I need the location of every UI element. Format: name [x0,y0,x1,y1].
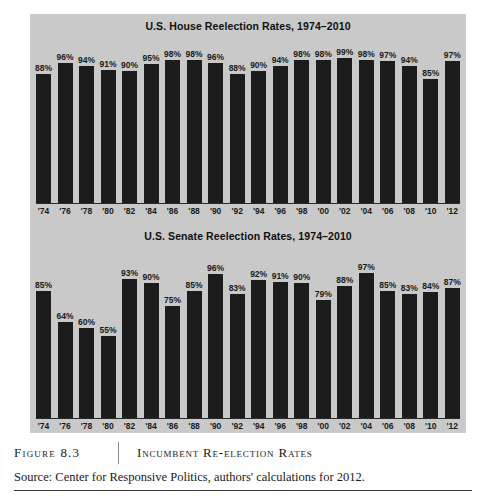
bar-slot: 60% [79,247,94,418]
x-tick-label: '78 [79,421,94,431]
bar-value-label: 85% [416,68,446,78]
bar [144,64,159,202]
x-tick-label: '74 [36,421,51,431]
bar [36,291,51,418]
x-tick-label: '86 [165,421,180,431]
bar-slot: 97% [359,247,374,418]
bar-slot: 83% [230,247,245,418]
bar [122,71,137,202]
bar [251,71,266,202]
bar [402,294,417,418]
bar [423,292,438,417]
bar [230,294,245,418]
x-tick-label: '92 [230,206,245,216]
x-tick-label: '10 [423,206,438,216]
bar-value-label: 87% [437,277,467,287]
bar-slot: 98% [165,37,180,203]
bar [294,283,309,417]
x-tick-label: '90 [208,206,223,216]
x-tick-label: '84 [144,421,159,431]
bar-slot: 94% [402,37,417,203]
bar [316,60,331,203]
bar-slot: 88% [36,37,51,203]
x-tick-label: '74 [36,206,51,216]
bar [165,306,180,418]
bar-slot: 88% [337,247,352,418]
bar-slot: 90% [122,37,137,203]
bar-value-label: 96% [201,52,231,62]
bar [251,280,266,417]
bar-slot: 92% [251,247,266,418]
x-tick-label: '04 [359,421,374,431]
bar-value-label: 83% [222,283,252,293]
bar [208,274,223,417]
house-x-axis-line [36,203,460,205]
x-tick-label: '80 [101,206,116,216]
x-tick-label: '00 [316,206,331,216]
x-tick-label: '08 [402,206,417,216]
bar [380,291,395,418]
x-tick-label: '02 [337,206,352,216]
bar-slot: 85% [187,247,202,418]
x-tick-label: '98 [294,206,309,216]
bar-slot: 64% [58,247,73,418]
bar-slot: 98% [187,37,202,203]
x-tick-label: '82 [122,421,137,431]
x-tick-label: '96 [273,421,288,431]
bar-value-label: 88% [330,275,360,285]
x-tick-label: '82 [122,206,137,216]
senate-bar-series: 85%64%60%55%93%90%75%85%96%83%92%91%90%7… [36,247,460,418]
house-chart: U.S. House Reelection Rates, 1974–2010 8… [30,14,466,224]
bar-value-label: 94% [394,55,424,65]
bar [359,273,374,418]
bar [144,283,159,417]
figure-source-note: Source: Center for Responsive Politics, … [14,470,474,485]
bar-slot: 90% [251,37,266,203]
bar-slot: 94% [273,37,288,203]
bar [187,60,202,203]
bar-slot: 96% [208,247,223,418]
x-tick-label: '12 [445,421,460,431]
bar [208,63,223,203]
x-tick-label: '96 [273,206,288,216]
bar-slot: 91% [273,247,288,418]
senate-x-axis-labels: '74'76'78'80'82'84'86'88'90'92'94'96'98'… [36,421,460,431]
bar-slot: 55% [101,247,116,418]
bar-value-label: 85% [29,280,59,290]
x-tick-label: '80 [101,421,116,431]
bar [165,60,180,203]
x-tick-label: '98 [294,421,309,431]
bar-slot: 98% [294,37,309,203]
bar [445,61,460,202]
bottom-rule [14,490,472,491]
bar [273,66,288,203]
house-plot-area: 88%96%94%91%90%95%98%98%96%88%90%94%98%9… [36,38,460,204]
x-tick-label: '08 [402,421,417,431]
bar-slot: 96% [208,37,223,203]
bar-value-label: 90% [136,272,166,282]
bar-value-label: 96% [201,263,231,273]
x-tick-label: '10 [423,421,438,431]
bar-slot: 98% [316,37,331,203]
bar-slot: 85% [380,247,395,418]
senate-plot-area: 85%64%60%55%93%90%75%85%96%83%92%91%90%7… [36,248,460,419]
house-x-axis-labels: '74'76'78'80'82'84'86'88'90'92'94'96'98'… [36,206,460,216]
bar [230,74,245,202]
bar [273,282,288,418]
bar [423,79,438,203]
bar-value-label: 79% [308,289,338,299]
bar [101,70,116,203]
bar [337,286,352,417]
x-tick-label: '86 [165,206,180,216]
bar-value-label: 90% [287,272,317,282]
bar-value-label: 85% [179,280,209,290]
figure-number: Figure 8.3 [14,445,118,461]
x-tick-label: '90 [208,421,223,431]
bar-slot: 85% [423,37,438,203]
x-tick-label: '00 [316,421,331,431]
bar [79,66,94,203]
bar [380,61,395,202]
bar-value-label: 75% [158,295,188,305]
x-tick-label: '84 [144,206,159,216]
x-tick-label: '88 [187,421,202,431]
